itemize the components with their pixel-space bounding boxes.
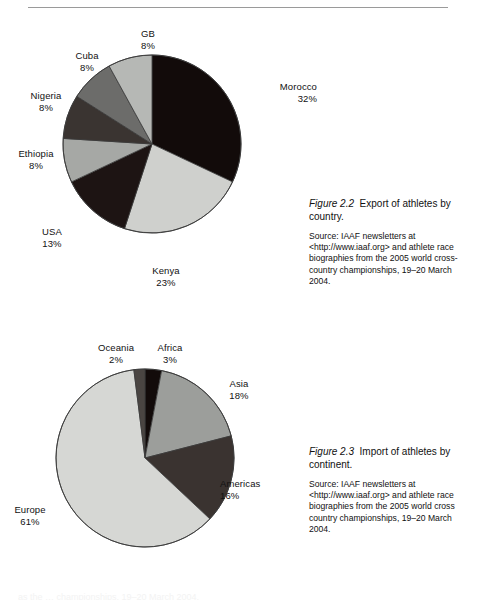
pie-chart-2-svg [55, 368, 235, 548]
figure-2-3-block: Oceania 2% Africa 3% Asia 18% Americas 1… [0, 336, 477, 584]
slice-label-nigeria: Nigeria 8% [18, 90, 74, 113]
slice-label-gb: GB 8% [121, 28, 175, 51]
slice-label-europe: Europe 61% [2, 504, 58, 527]
figure-2-2-block: GB 8% Cuba 8% Nigeria 8% Ethiopia 8% USA… [0, 14, 477, 314]
figure-2-3-caption: Figure 2.3 Import of athletes by contine… [309, 446, 462, 535]
slice-label-usa: USA 13% [28, 226, 76, 249]
page-top-rule [28, 7, 448, 8]
slice-label-africa: Africa 3% [146, 342, 194, 365]
figure-2-2-title: Figure 2.2 Export of athletes by country… [309, 198, 462, 223]
figure-2-2-source: Source: IAAF newsletters at <http://www.… [309, 231, 462, 287]
figure-2-3-source: Source: IAAF newsletters at <http://www.… [309, 479, 462, 535]
figure-2-3-title: Figure 2.3 Import of athletes by contine… [309, 446, 462, 471]
slice-label-asia: Asia 18% [216, 378, 262, 401]
slice-label-kenya: Kenya 23% [139, 265, 193, 288]
slice-label-americas: Americas 16% [220, 478, 288, 501]
pie-chart-export-by-country [62, 54, 242, 234]
document-page: GB 8% Cuba 8% Nigeria 8% Ethiopia 8% USA… [0, 0, 477, 602]
page-bottom-partial-text: as the … championships, 19–20 March 2004… [18, 592, 458, 600]
pie-chart-import-by-continent [55, 368, 235, 548]
slice-label-oceania: Oceania 2% [88, 342, 144, 365]
slice-label-ethiopia: Ethiopia 8% [6, 148, 66, 171]
figure-2-2-caption: Figure 2.2 Export of athletes by country… [309, 198, 462, 287]
slice-label-cuba: Cuba 8% [60, 50, 114, 73]
pie-chart-1-svg [62, 54, 242, 234]
slice-label-morocco: Morocco 32% [253, 81, 317, 104]
